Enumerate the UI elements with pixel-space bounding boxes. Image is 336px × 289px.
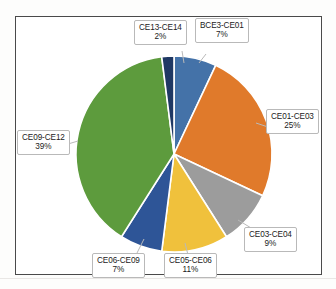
slice-label-bce3-ce01: BCE3-CE01 7% [195,18,249,43]
slice-label-ce13-ce14: CE13-CE14 2% [134,20,187,45]
slice-label-ce03-ce04: CE03-CE04 9% [244,227,297,252]
slice-label-percent: 7% [200,30,244,39]
slice-label-ce01-ce03: CE01-CE03 25% [266,109,319,134]
slice-label-ce09-ce12: CE09-CE12 39% [17,130,70,155]
slice-label-category: CE05-CE06 [169,256,212,265]
slice-label-percent: 2% [139,32,182,41]
slice-label-percent: 39% [22,142,65,151]
slice-label-ce06-ce09: CE06-CE09 7% [92,253,145,278]
slice-label-category: CE01-CE03 [271,112,314,121]
pie-chart-plot-area: CE13-CE14 2% BCE3-CE01 7% CE01-CE03 25% … [16,17,321,274]
slice-label-category: CE03-CE04 [249,230,292,239]
slice-label-category: BCE3-CE01 [200,21,244,30]
slice-label-percent: 9% [249,239,292,248]
slice-label-category: CE13-CE14 [139,23,182,32]
slice-label-percent: 11% [169,265,212,274]
slice-label-percent: 7% [97,265,140,274]
slice-label-percent: 25% [271,121,314,130]
pie-chart-frame: CE13-CE14 2% BCE3-CE01 7% CE01-CE03 25% … [15,16,322,275]
slice-label-ce05-ce06: CE05-CE06 11% [164,253,217,278]
slice-label-category: CE06-CE09 [97,256,140,265]
slice-label-category: CE09-CE12 [22,133,65,142]
scan-artifact-line [0,278,336,279]
